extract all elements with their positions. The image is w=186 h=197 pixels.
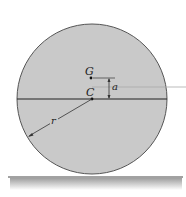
ground-hatching — [10, 178, 182, 190]
label-a: a — [112, 81, 118, 92]
label-c: C — [86, 86, 95, 99]
label-g: G — [85, 65, 94, 78]
disk-diagram: G C a r — [0, 0, 186, 197]
